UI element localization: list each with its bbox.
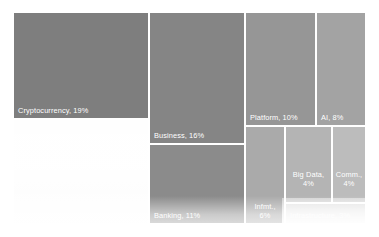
treemap-tile-cryptocurrency[interactable]: Cryptocurrency, 19%	[14, 13, 148, 118]
treemap-tile-label-line1-comm: Comm.,	[335, 170, 363, 179]
treemap-tile-label-ai: AI, 8%	[321, 113, 343, 122]
treemap-tile-label-banking: Banking, 11%	[154, 211, 200, 220]
treemap-tile-pale-block[interactable]	[14, 120, 148, 223]
treemap-tile-label-line1-infmt: Infmt.,	[248, 202, 282, 211]
treemap-tile-label-line1-big-data: Big Data,	[288, 170, 329, 179]
treemap-tile-label-infmt: Infmt.,6%	[246, 202, 284, 220]
treemap-tile-label-line2-infmt: 6%	[248, 211, 282, 220]
treemap-tile-label-platform: Platform, 10%	[250, 113, 298, 122]
treemap-chart: Cryptocurrency, 19%Business, 16%Banking,…	[14, 13, 365, 223]
treemap-tile-platform[interactable]: Platform, 10%	[246, 13, 315, 125]
treemap-tile-label-line2-big-data: 4%	[288, 179, 329, 188]
treemap-tile-ai[interactable]: AI, 8%	[317, 13, 365, 125]
treemap-tile-infrastructure[interactable]: Infrastructure, 3%	[286, 204, 365, 223]
treemap-tile-label-comm: Comm.,4%	[333, 170, 365, 188]
treemap-tile-label-line2-comm: 4%	[335, 179, 363, 188]
treemap-tile-infmt[interactable]: Infmt.,6%	[246, 127, 284, 223]
treemap-tile-big-data[interactable]: Big Data,4%	[286, 127, 331, 202]
treemap-tile-label-cryptocurrency: Cryptocurrency, 19%	[18, 106, 88, 115]
treemap-tile-label-infrastructure: Infrastructure, 3%	[290, 211, 350, 220]
treemap-tile-label-business: Business, 16%	[154, 131, 204, 140]
treemap-tile-banking[interactable]: Banking, 11%	[150, 145, 244, 223]
treemap-tile-label-big-data: Big Data,4%	[286, 170, 331, 188]
treemap-tile-comm[interactable]: Comm.,4%	[333, 127, 365, 202]
treemap-tile-business[interactable]: Business, 16%	[150, 13, 244, 143]
